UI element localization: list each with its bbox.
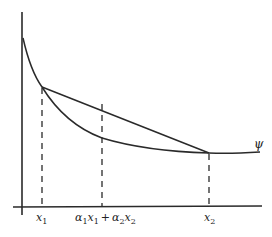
convexity-diagram: ψ x1 α1x1+α2x2 x2 bbox=[0, 0, 272, 237]
x2-label: x2 bbox=[204, 211, 215, 226]
x1-label: x1 bbox=[36, 211, 47, 226]
chord-line bbox=[42, 87, 209, 153]
x-axis bbox=[13, 206, 262, 207]
midpoint-label: α1x1+α2x2 bbox=[75, 211, 136, 226]
psi-label: ψ bbox=[254, 137, 264, 151]
psi-curve bbox=[23, 38, 260, 153]
